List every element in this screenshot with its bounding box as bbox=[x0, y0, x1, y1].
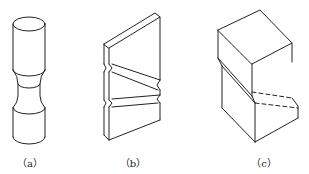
specimen-b-plate bbox=[104, 13, 160, 140]
label-a: （a） bbox=[17, 155, 43, 170]
figure-drawing bbox=[0, 0, 309, 174]
label-b: （b） bbox=[120, 155, 146, 170]
specimen-a-cylinder bbox=[13, 17, 45, 144]
label-c: （c） bbox=[251, 155, 277, 170]
specimen-c-block bbox=[218, 10, 298, 142]
